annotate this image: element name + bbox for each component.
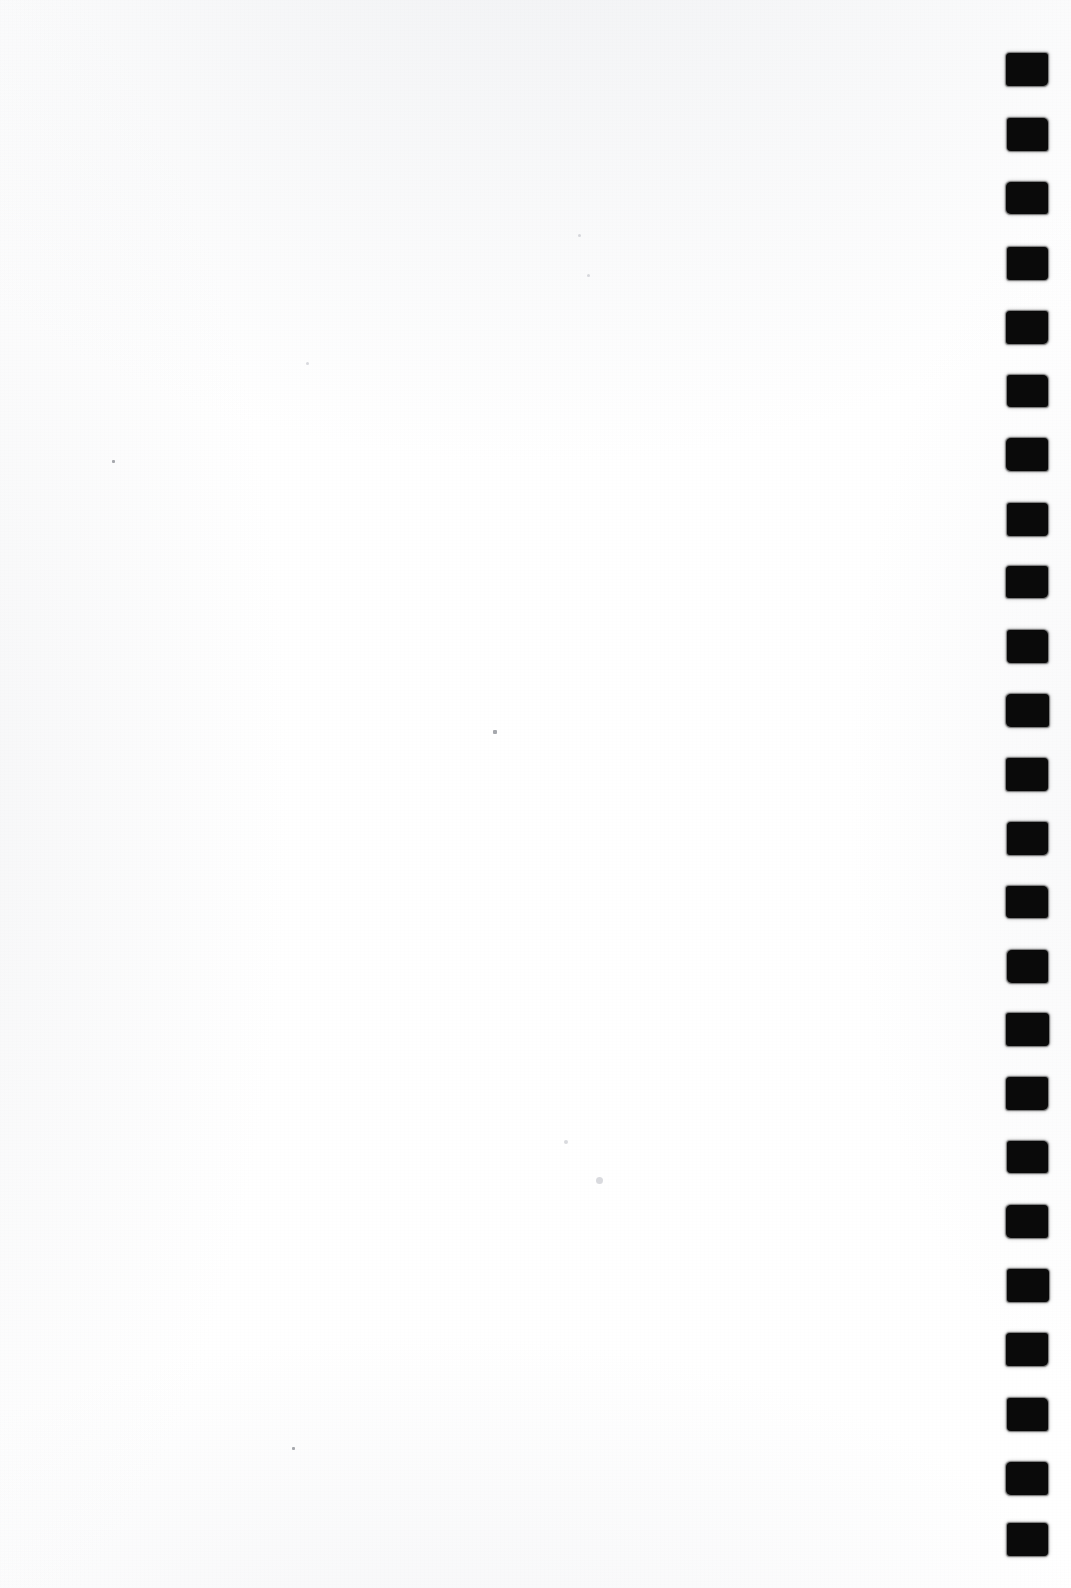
scan-speck: [596, 1177, 603, 1184]
scan-speck: [578, 234, 581, 237]
scan-speck: [292, 1447, 295, 1450]
scan-speck: [493, 730, 497, 734]
page-content-area: [0, 0, 985, 1588]
scanned-page: [0, 0, 1071, 1588]
scan-speck: [564, 1140, 568, 1144]
scan-speck: [306, 362, 309, 365]
scan-speck: [112, 460, 115, 463]
scan-speck: [587, 274, 590, 277]
